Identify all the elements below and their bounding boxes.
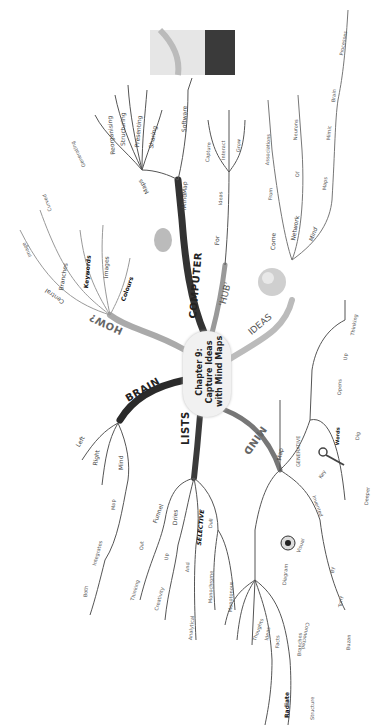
mind-subbranches: [225, 300, 345, 725]
central-node-title: Chapter 9: Capture Ideas with Mind Maps: [195, 337, 225, 407]
lists-subbranches: [140, 478, 235, 640]
label-generative: GENERATIVE: [296, 436, 301, 467]
label-associations: Associations: [265, 134, 271, 165]
label-by: By: [330, 567, 335, 574]
label-brain-map: Map: [111, 499, 116, 510]
label-images: Images: [103, 256, 110, 278]
software-box-image: [150, 30, 235, 75]
key-image: [319, 448, 344, 465]
branch-label-lists: LISTS: [181, 411, 191, 445]
label-dig: Dig: [355, 432, 361, 441]
label-opens: Opens: [337, 379, 343, 395]
label-structuring: Structuring: [120, 112, 126, 146]
label-monotonous: Monotonous: [228, 581, 234, 612]
people-computer-image: [154, 228, 172, 252]
label-imindmap: iMindMap: [181, 181, 188, 210]
eye-image: [281, 536, 295, 550]
label-grow: Grow: [236, 139, 241, 152]
label-hub-ideas: Ideas: [218, 192, 223, 206]
central-node: Chapter 9: Capture Ideas with Mind Maps: [183, 331, 231, 417]
label-facts: Facts: [275, 635, 280, 648]
lightbulb-image: [258, 268, 286, 296]
label-structure: Structure: [310, 697, 315, 720]
label-software: Software: [181, 106, 188, 133]
label-neurons: Neurons: [293, 119, 299, 140]
label-for: For: [214, 236, 220, 246]
label-brain-mind: Mind: [118, 456, 124, 470]
label-both: Both: [83, 585, 89, 597]
label-buzan: Buzan: [346, 635, 352, 651]
label-out: Out: [139, 541, 145, 550]
label-words: Words: [335, 427, 341, 445]
label-mind-up: Up: [343, 353, 348, 360]
central-line-2: Capture Ideas: [205, 337, 215, 407]
label-radiate: Radiate: [284, 692, 290, 718]
label-tony: Tony: [338, 596, 343, 608]
label-dull: Dull: [208, 518, 214, 528]
label-come: Come: [270, 233, 277, 251]
label-up: Up: [164, 553, 169, 560]
label-and: And: [185, 562, 190, 572]
label-from: From: [268, 188, 273, 201]
central-line-1: Chapter 9:: [195, 337, 205, 407]
label-of: Of: [295, 171, 300, 177]
how-subbranches: [20, 210, 130, 315]
ideas-subbranches: [268, 10, 348, 260]
label-interact: Interact: [221, 140, 226, 160]
central-line-3: with Mind Maps: [215, 337, 225, 407]
brain-subbranches: [82, 423, 129, 615]
label-dries: Dries: [172, 509, 179, 525]
branch-lists: [194, 415, 200, 478]
